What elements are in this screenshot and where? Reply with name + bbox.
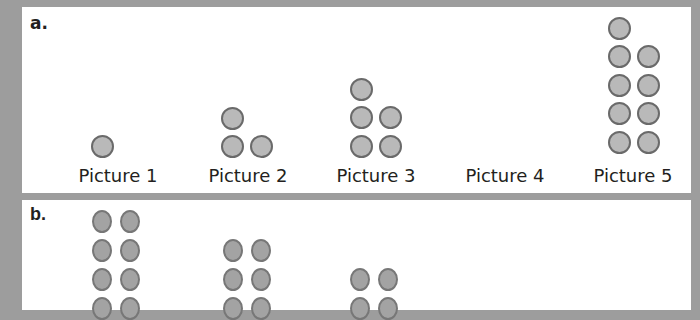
dot [637, 102, 660, 125]
dot [350, 135, 373, 158]
dot [251, 239, 271, 262]
picture-1-label: Picture 1 [58, 165, 178, 186]
dot [350, 268, 370, 291]
dot [608, 131, 631, 154]
picture-4-label: Picture 4 [445, 165, 565, 186]
dot [379, 106, 402, 129]
dot [608, 45, 631, 68]
dot [120, 268, 140, 291]
dot [223, 268, 243, 291]
dot [608, 17, 631, 40]
dot [221, 135, 244, 158]
dot [637, 45, 660, 68]
dot [120, 210, 140, 233]
panel-b-letter: b. [30, 204, 46, 225]
picture-2-label: Picture 2 [188, 165, 308, 186]
dot [92, 297, 112, 320]
dot [91, 135, 114, 158]
dot [350, 297, 370, 320]
dot [223, 239, 243, 262]
dot [221, 107, 244, 130]
dot [120, 297, 140, 320]
dot [378, 297, 398, 320]
panel-a: a. Picture 1 Picture 2 Picture 3 Picture… [22, 7, 691, 193]
picture-3-label: Picture 3 [316, 165, 436, 186]
dot [350, 106, 373, 129]
dot [120, 239, 140, 262]
dot [350, 78, 373, 101]
dot [379, 135, 402, 158]
panel-b: b. [22, 200, 691, 310]
dot [250, 135, 273, 158]
panel-a-letter: a. [30, 13, 48, 33]
dot [608, 74, 631, 97]
dot [378, 268, 398, 291]
dot [637, 131, 660, 154]
dot [251, 268, 271, 291]
dot [637, 74, 660, 97]
picture-5-label: Picture 5 [573, 165, 693, 186]
dot [608, 102, 631, 125]
dot [92, 210, 112, 233]
dot [92, 268, 112, 291]
dot [251, 297, 271, 320]
dot [223, 297, 243, 320]
dot [92, 239, 112, 262]
